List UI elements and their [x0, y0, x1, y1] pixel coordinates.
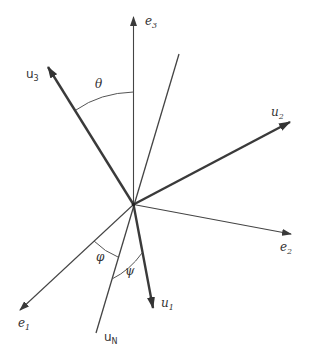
label-e2: e2 [280, 240, 292, 256]
label-e1: e1 [18, 316, 30, 332]
theta-arc [76, 92, 134, 110]
label-uN: uN [104, 330, 118, 346]
axis-e2-line [134, 205, 292, 235]
line-of-nodes [96, 54, 179, 333]
label-u3: u3 [26, 67, 39, 83]
axis-e1-line [20, 205, 134, 311]
euler-angles-diagram: e1 e2 e3 u1 u2 u3 uN θ φ ψ [0, 0, 309, 356]
label-psi: ψ [125, 264, 135, 278]
axis-u2-line [134, 122, 291, 205]
label-u2: u2 [271, 105, 284, 121]
label-phi: φ [96, 250, 105, 264]
label-u1: u1 [161, 296, 174, 312]
label-e3: e3 [145, 14, 157, 30]
label-theta: θ [95, 77, 103, 91]
origin-point [132, 203, 136, 207]
axis-u1-line [134, 205, 154, 309]
axis-u3-line [48, 67, 134, 205]
